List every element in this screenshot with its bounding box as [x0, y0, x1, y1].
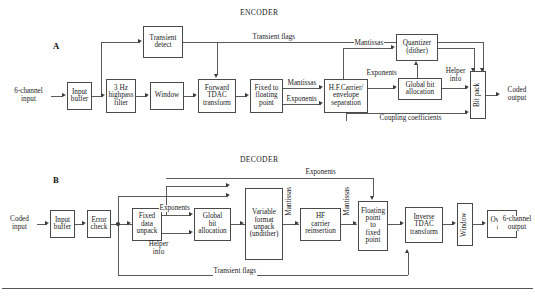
decoder-output-label: 6-channeloutput [498, 216, 535, 231]
arrowhead-quantizer-in [391, 45, 395, 49]
connector-tap-to-transient-detect [101, 42, 102, 96]
decoder-title: DECODER [240, 155, 278, 164]
connector-junction-down [118, 224, 119, 275]
arrowhead-forward-tdac [193, 93, 197, 97]
arrowhead-error-check [82, 221, 86, 225]
arrowhead-variable-unpack-in [240, 221, 244, 225]
encoder-block-fixed-to-floating-point[interactable]: Fixed tofloatingpoint [250, 79, 283, 113]
arrowhead-gba-exponents [189, 212, 193, 216]
encoder-input-label: 6-channelinput [6, 88, 51, 103]
arrowhead-overlap-add-in [482, 221, 486, 225]
connector-exponents-to-gba [162, 215, 191, 216]
decoder-label-transient-flags: Transient flags [213, 268, 257, 276]
encoder-label-transient-flags: Transient flags [252, 34, 296, 42]
encoder-title: ENCODER [240, 8, 278, 17]
connector-transient-to-tdac [217, 42, 218, 75]
connector-transient-flags-up [408, 253, 409, 275]
encoder-label-mantissas-out: Mantissas [287, 80, 317, 88]
connector-transient-flags-down [483, 42, 484, 71]
encoder-block-forward-tdac-transform[interactable]: ForwardTDACtransform [198, 79, 236, 113]
connector-junction-up [118, 196, 119, 224]
arrowhead-variable-unpack-exponents [226, 183, 230, 187]
connector-exponents-to-hf [283, 104, 321, 105]
encoder-block-bit-pack[interactable]: Bit pack [470, 71, 486, 119]
arrowhead-tdac-transient [214, 74, 218, 78]
encoder-label-helper-info: Helperinfo [444, 68, 467, 83]
arrowhead-floating-to-fixed-in [353, 221, 357, 225]
arrowhead-fixed-data-unpack [127, 221, 131, 225]
arrowhead-fixed-to-floating [245, 93, 249, 97]
decoder-label-mantissas-2: Mantissas [343, 187, 352, 216]
connector-exponents-to-variable-unpack [166, 186, 228, 187]
panel-letter-b: B [53, 175, 59, 185]
decoder-block-global-bit-allocation[interactable]: Globalbitallocation [194, 208, 231, 241]
figure-canvas: ENCODER A 6-channelinput Inputbuffer 3 H… [0, 0, 535, 296]
connector-allocation-to-quantizer [417, 65, 418, 78]
connector-exponents-top [166, 178, 373, 179]
encoder-block-global-bit-allocation[interactable]: Global bitallocation [398, 78, 442, 100]
connector-coupling-down [346, 113, 347, 121]
connector-transient-flags [183, 42, 483, 43]
decoder-block-fixed-data-unpack[interactable]: Fixeddataunpack [132, 208, 162, 241]
connector-helper-info [442, 88, 467, 89]
arrowhead-highpass [101, 93, 105, 97]
encoder-block-hf-carrier-envelope-separation[interactable]: H.F.Carrier/envelopeseparation [324, 79, 368, 113]
arrowhead-transient-detect [138, 39, 142, 43]
panel-letter-a: A [53, 41, 59, 51]
encoder-output-label: Codedoutput [500, 87, 534, 102]
decoder-block-window[interactable]: Window [457, 203, 473, 246]
connector-quantizer-out [438, 48, 474, 49]
decoder-block-floating-point-to-fixed-point[interactable]: Floatingpointtofixedpoint [358, 201, 388, 251]
encoder-block-input-buffer[interactable]: Inputbuffer [67, 82, 92, 110]
connector-mantissas-to-hf [283, 88, 321, 89]
arrowhead-window [145, 93, 149, 97]
decoder-block-inverse-tdac-transform[interactable]: InverseTDACtransform [405, 207, 443, 243]
decoder-label-exponents-mid: Exponents [159, 205, 190, 213]
arrowhead-coupling-bitpack [465, 110, 469, 114]
decoder-label-helper-info: Helperinfo [143, 241, 174, 256]
encoder-label-exponents-out: Exponents [286, 96, 317, 104]
arrowhead-gba-helper [189, 230, 193, 234]
decoder-label-mantissas-1: Mantissas [285, 187, 294, 216]
arrowhead-exponents-floatfix [370, 196, 374, 200]
arrowhead-hf-carrier-in [295, 221, 299, 225]
arrowhead-helper-bitpack [465, 85, 469, 89]
connector-exponents-to-allocation [368, 88, 395, 89]
arrowhead-decoder-input-buffer [45, 221, 49, 225]
connector-mantissas-to-quantizer [343, 48, 393, 49]
arrowhead-exponents-hf [319, 101, 323, 105]
decoder-block-input-buffer[interactable]: Inputbuffer [50, 210, 75, 238]
decoder-block-error-check[interactable]: Errorcheck [87, 210, 111, 238]
encoder-label-coupling-coefficients: Coupling coefficients [379, 115, 442, 123]
connector-bus-to-variable-unpack [118, 196, 228, 197]
connector-to-transient-detect [101, 42, 140, 43]
junction-dot-error-check [116, 222, 119, 225]
arrowhead-mantissas-hf [319, 85, 323, 89]
encoder-label-exponents-to-allocation: Exponents [366, 70, 397, 78]
encoder-block-quantizer-dither[interactable]: Quantizer(dither) [396, 34, 438, 61]
arrowhead-quantizer-bits [414, 61, 418, 65]
arrowhead-transient-flags-itdac [405, 249, 409, 253]
encoder-block-transient-detect[interactable]: Transientdetect [143, 26, 183, 58]
arrowhead-inverse-tdac-in [400, 221, 404, 225]
connector-helper-to-gba [162, 233, 191, 234]
connector-transient-flags-decoder [118, 275, 408, 276]
encoder-label-mantissas-to-quantizer: Mantissas [354, 40, 384, 48]
arrowhead-input-buffer [62, 93, 66, 97]
arrowhead-allocation-in [393, 85, 397, 89]
decoder-block-variable-format-unpack[interactable]: Variableformatunpack(undither) [245, 188, 283, 260]
decoder-input-label: Codedinput [2, 216, 37, 231]
bottom-rule [2, 288, 533, 289]
arrowhead-decoder-window-in [452, 221, 456, 225]
decoder-label-exponents-top: Exponents [305, 169, 336, 177]
encoder-block-highpass-filter[interactable]: 3 Hzhighpassfilter [106, 79, 136, 113]
arrowhead-variable-unpack-bus [226, 193, 230, 197]
encoder-block-window[interactable]: Window [150, 82, 184, 110]
decoder-block-hf-carrier-reinsertion[interactable]: HFcarrierreinsertion [300, 208, 341, 241]
connector-exponents-top-down [373, 178, 374, 196]
